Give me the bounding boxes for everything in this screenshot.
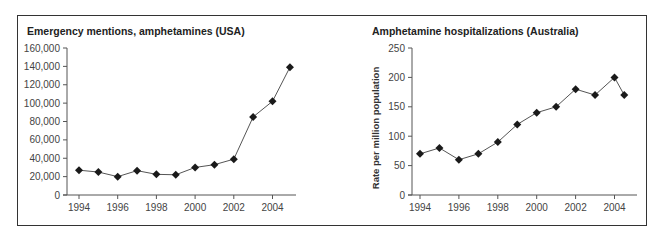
diamond-marker-icon	[133, 167, 141, 175]
y-axis-label: Rate per million population	[370, 67, 381, 190]
x-tick-label: 1996	[448, 202, 471, 213]
x-tick-label: 1994	[409, 202, 432, 213]
y-tick-label: 50	[394, 160, 406, 171]
y-tick-label: 160,000	[24, 43, 61, 54]
y-tick-label: 150	[388, 101, 405, 112]
diamond-marker-icon	[620, 91, 628, 99]
y-tick-label: 40,000	[29, 153, 60, 164]
diamond-marker-icon	[172, 171, 180, 179]
y-tick-label: 120,000	[24, 79, 61, 90]
x-tick-label: 2000	[526, 202, 549, 213]
x-tick-label: 2002	[223, 202, 246, 213]
diamond-marker-icon	[230, 155, 238, 163]
x-axis: 199419961998200020022004	[408, 195, 637, 213]
x-tick-label: 2004	[261, 202, 284, 213]
y-tick-label: 200	[388, 72, 405, 83]
line-series	[416, 73, 628, 163]
diamond-marker-icon	[210, 161, 218, 169]
x-tick-label: 2000	[184, 202, 207, 213]
chart-title: Emergency mentions, amphetamines (USA)	[27, 25, 245, 37]
y-tick-label: 0	[54, 190, 60, 201]
x-tick-label: 1994	[68, 202, 91, 213]
diamond-marker-icon	[114, 173, 122, 181]
diamond-marker-icon	[94, 168, 102, 176]
chart-title: Amphetamine hospitalizations (Australia)	[372, 25, 579, 37]
diamond-marker-icon	[533, 109, 541, 117]
chart-australia-hospitalizations: Amphetamine hospitalizations (Australia)…	[370, 25, 637, 213]
x-tick-label: 2004	[603, 202, 626, 213]
y-tick-label: 100	[388, 131, 405, 142]
x-tick-label: 1998	[487, 202, 510, 213]
y-axis: 050100150200250	[388, 43, 412, 201]
x-tick-label: 1998	[145, 202, 168, 213]
diamond-marker-icon	[191, 163, 199, 171]
diamond-marker-icon	[152, 170, 160, 178]
y-tick-label: 250	[388, 43, 405, 54]
x-tick-label: 1996	[107, 202, 130, 213]
diamond-marker-icon	[75, 166, 83, 174]
y-tick-label: 140,000	[24, 61, 61, 72]
y-axis: 020,00040,00060,00080,000100,000120,0001…	[24, 43, 67, 201]
charts-figure: Emergency mentions, amphetamines (USA) 0…	[0, 0, 662, 236]
diamond-marker-icon	[435, 144, 443, 152]
y-tick-label: 60,000	[29, 134, 60, 145]
diamond-marker-icon	[416, 150, 424, 158]
chart-usa-emergency-mentions: Emergency mentions, amphetamines (USA) 0…	[24, 25, 296, 213]
y-tick-label: 80,000	[29, 116, 60, 127]
line-series	[75, 63, 294, 180]
y-tick-label: 20,000	[29, 171, 60, 182]
diamond-marker-icon	[474, 150, 482, 158]
diamond-marker-icon	[286, 63, 294, 71]
y-tick-label: 0	[399, 190, 405, 201]
y-tick-label: 100,000	[24, 98, 61, 109]
x-axis: 199419961998200020022004	[63, 195, 296, 213]
diamond-marker-icon	[455, 156, 463, 164]
x-tick-label: 2002	[564, 202, 587, 213]
